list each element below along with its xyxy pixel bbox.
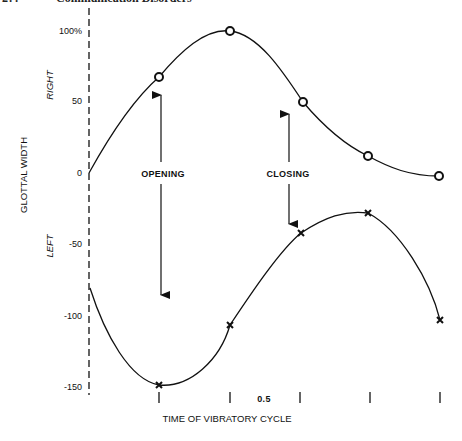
y-tick: 0	[77, 168, 82, 178]
y-tick: -150	[64, 382, 82, 392]
y-axis-upper-label: RIGHT	[44, 69, 55, 100]
x-tick-label: 0.5	[257, 394, 270, 404]
y-axis-lower-label: LEFT	[44, 233, 55, 257]
y-tick: 50	[72, 96, 82, 106]
x-axis-title: TIME OF VIBRATORY CYCLE	[162, 413, 291, 424]
series-left-fold	[90, 212, 440, 385]
right-fold-markers	[155, 27, 443, 180]
left-fold-markers	[156, 210, 443, 388]
y-tick: 100%	[59, 26, 82, 36]
y-axis-title: GLOTTAL WIDTH	[18, 137, 29, 213]
y-tick-labels: 100% 50 0 -50 -100 -150	[59, 26, 82, 392]
opening-label: OPENING	[141, 169, 185, 179]
y-tick: -50	[69, 239, 82, 249]
glottal-width-chart: 100% 50 0 -50 -100 -150 GLOTTAL WIDTH RI…	[0, 0, 462, 441]
x-ticks	[159, 392, 440, 403]
series-right-fold	[89, 31, 439, 176]
closing-label: CLOSING	[266, 169, 309, 179]
y-tick: -100	[64, 311, 82, 321]
